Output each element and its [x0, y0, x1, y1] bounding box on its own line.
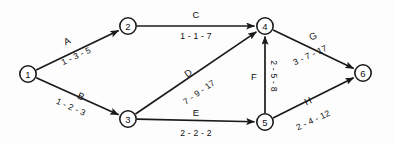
node-label-2: 2	[125, 21, 130, 32]
edge-values-d: 7 - 9 - 17	[181, 77, 217, 106]
edge-label-c: C	[193, 9, 200, 20]
node-label-3: 3	[125, 114, 130, 125]
edge-label-a: A	[62, 34, 73, 47]
network-diagram-canvas: 123456 A1 - 3 - 5B1 - 2 - 3C1 - 1 - 7D7 …	[0, 0, 394, 145]
edge-values-c: 1 - 1 - 7	[180, 31, 211, 41]
edge-values-f: 2 - 5 - 8	[269, 60, 279, 91]
edge-values-h: 2 - 4 - 12	[294, 108, 331, 132]
edge-arrow-e	[137, 119, 255, 122]
edge-arrow-h	[273, 78, 354, 118]
node-6[interactable]: 6	[355, 65, 371, 81]
edge-label-h: H	[303, 95, 314, 108]
node-label-1: 1	[25, 69, 30, 80]
network-diagram: 123456 A1 - 3 - 5B1 - 2 - 3C1 - 1 - 7D7 …	[0, 0, 394, 145]
edge-values-a: 1 - 3 - 5	[60, 45, 93, 67]
node-4[interactable]: 4	[257, 18, 273, 34]
node-label-5: 5	[262, 117, 267, 128]
node-5[interactable]: 5	[257, 114, 273, 130]
edge-values-g: 3 - 7 - 17	[291, 43, 328, 67]
edge-label-e: E	[193, 107, 199, 118]
node-label-6: 6	[360, 68, 365, 79]
edge-label-g: G	[307, 29, 318, 42]
node-2[interactable]: 2	[120, 18, 136, 34]
edge-values-e: 2 - 2 - 2	[180, 128, 211, 138]
edge-labels-layer: A1 - 3 - 5B1 - 2 - 3C1 - 1 - 7D7 - 9 - 1…	[55, 9, 332, 139]
node-label-4: 4	[262, 21, 267, 32]
node-1[interactable]: 1	[20, 66, 36, 82]
edge-label-b: B	[76, 90, 86, 103]
edge-label-f: F	[251, 71, 257, 82]
node-3[interactable]: 3	[120, 111, 136, 127]
edge-arrow-d	[135, 32, 256, 114]
edge-label-d: D	[182, 66, 194, 79]
